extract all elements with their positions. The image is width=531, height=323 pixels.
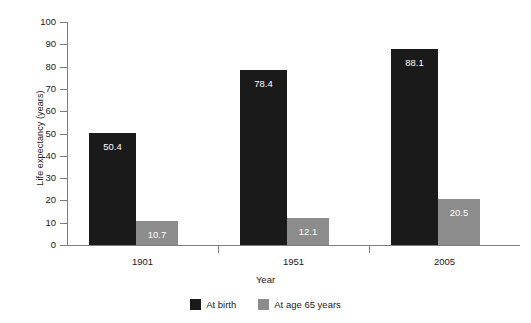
y-axis-tick-mark <box>60 178 67 179</box>
bar-value-label: 78.4 <box>240 78 287 89</box>
y-axis-tick-label: 40 <box>14 151 56 161</box>
y-axis-tick-mark <box>60 223 67 224</box>
bar: 10.7 <box>136 221 178 245</box>
y-axis-tick-mark <box>60 67 67 68</box>
y-axis-tick-mark <box>60 111 67 112</box>
bar-value-label: 10.7 <box>136 229 178 240</box>
legend: At birth At age 65 years <box>0 299 531 310</box>
bar-chart: Life expectancy (years) 0102030405060708… <box>0 0 531 323</box>
x-axis-title: Year <box>0 274 531 285</box>
y-axis-tick: 0 <box>0 245 531 246</box>
y-axis-tick-label: 50 <box>14 129 56 139</box>
y-axis-tick-label: 10 <box>14 218 56 228</box>
legend-swatch-icon <box>190 299 201 310</box>
y-axis-tick-label: 30 <box>14 173 56 183</box>
x-axis-tick-mark <box>369 246 370 253</box>
y-axis-tick-label: 20 <box>14 195 56 205</box>
bar-value-label: 12.1 <box>287 226 329 237</box>
y-axis-tick-mark <box>60 245 67 246</box>
bar: 20.5 <box>438 199 480 245</box>
legend-item-at-birth[interactable]: At birth <box>190 299 236 310</box>
x-axis-group-label: 1901 <box>103 256 183 267</box>
legend-label: At age 65 years <box>274 299 341 310</box>
y-axis-tick-label: 60 <box>14 106 56 116</box>
bar: 88.1 <box>391 49 438 245</box>
y-axis-tick-label: 80 <box>14 62 56 72</box>
plot-area: 50.410.778.412.188.120.5 <box>67 22 520 245</box>
y-axis-tick-mark <box>60 89 67 90</box>
bar: 78.4 <box>240 70 287 245</box>
bar: 50.4 <box>89 133 136 245</box>
bar-value-label: 88.1 <box>391 57 438 68</box>
y-axis-tick-label: 0 <box>14 240 56 250</box>
legend-swatch-icon <box>258 299 269 310</box>
y-axis-tick-label: 90 <box>14 39 56 49</box>
x-axis-group-label: 2005 <box>405 256 485 267</box>
legend-label: At birth <box>206 299 236 310</box>
y-axis-tick-mark <box>60 134 67 135</box>
bar-value-label: 20.5 <box>438 207 480 218</box>
bar-value-label: 50.4 <box>89 141 136 152</box>
y-axis-tick-mark <box>60 156 67 157</box>
y-axis-tick-label: 70 <box>14 84 56 94</box>
y-axis-tick-label: 100 <box>14 17 56 27</box>
x-axis-tick-mark <box>218 246 219 253</box>
bar: 12.1 <box>287 218 329 245</box>
y-axis-tick-mark <box>60 22 67 23</box>
legend-item-at-age-65[interactable]: At age 65 years <box>258 299 341 310</box>
y-axis-tick-mark <box>60 44 67 45</box>
x-axis-group-label: 1951 <box>254 256 334 267</box>
y-axis-tick-mark <box>60 200 67 201</box>
